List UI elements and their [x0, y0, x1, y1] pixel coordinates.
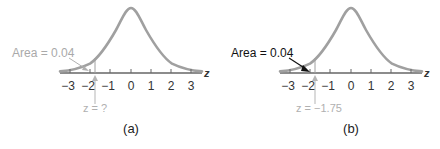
panel-caption: (a) — [111, 121, 151, 136]
panel-b: z −3 −2 −1 0 1 2 3 Area = 0.04 z = −1.75… — [220, 0, 440, 149]
tick-label: 1 — [148, 79, 155, 93]
normal-curve-chart-a: z −3 −2 −1 0 1 2 3 Area = 0.04 z = ? — [0, 0, 220, 149]
tick-label: −1 — [321, 79, 335, 93]
normal-curve-chart-b: z −3 −2 −1 0 1 2 3 Area = 0.04 z = −1.75 — [220, 0, 440, 149]
axis-var-label: z — [423, 67, 430, 79]
panel-caption: (b) — [331, 121, 371, 136]
tick-label: 0 — [128, 79, 135, 93]
z-value-label: z = −1.75 — [296, 102, 342, 114]
tick-label: 2 — [168, 79, 175, 93]
bell-curve — [60, 8, 202, 71]
area-label: Area = 0.04 — [231, 46, 294, 60]
axis-var-label: z — [203, 67, 210, 79]
panel-a: z −3 −2 −1 0 1 2 3 Area = 0.04 z = ? (a) — [0, 0, 220, 149]
bell-curve — [280, 8, 422, 71]
tick-label: 0 — [348, 79, 355, 93]
tick-label: −2 — [301, 79, 315, 93]
tick-label: −1 — [101, 79, 115, 93]
tick-label: −3 — [281, 79, 295, 93]
tick-label: −3 — [61, 79, 75, 93]
z-value-label: z = ? — [83, 102, 107, 114]
tick-label: 3 — [408, 79, 415, 93]
tick-label: 3 — [188, 79, 195, 93]
tick-label: −2 — [81, 79, 95, 93]
area-label: Area = 0.04 — [12, 46, 75, 60]
tick-label: 2 — [388, 79, 395, 93]
tick-label: 1 — [368, 79, 375, 93]
